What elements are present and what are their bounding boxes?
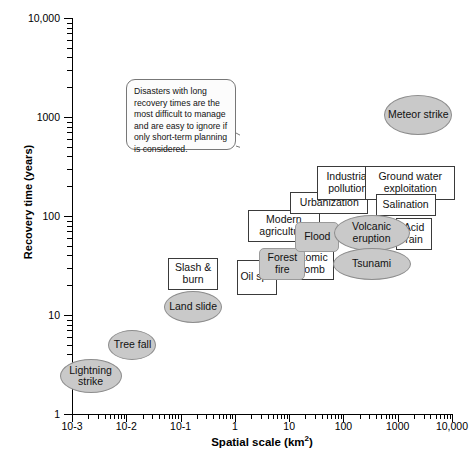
x-tick-minor	[440, 414, 441, 419]
x-tick-minor	[414, 414, 415, 419]
data-point-tsunami: Tsunami	[333, 248, 411, 280]
x-tick-minor	[219, 414, 220, 419]
x-tick-minor	[392, 414, 393, 419]
data-point-flood: Flood	[295, 222, 339, 252]
x-tick-minor	[118, 414, 119, 419]
x-tick-minor	[261, 414, 262, 419]
data-point-slash-burn: Slash & burn	[168, 258, 218, 290]
data-point-land-slide: Land slide	[164, 291, 222, 323]
x-tick-minor	[386, 414, 387, 419]
y-tick-minor	[67, 330, 72, 331]
y-tick-major	[64, 18, 72, 19]
data-point-tree-fall: Tree fall	[108, 330, 156, 360]
y-tick-minor	[67, 320, 72, 321]
x-tick-minor	[159, 414, 160, 419]
y-tick-minor	[67, 57, 72, 58]
x-tick-minor	[232, 414, 233, 419]
data-point-meteor-strike: Meteor strike	[384, 95, 452, 135]
x-tick-minor	[395, 414, 396, 419]
y-tick-minor	[67, 147, 72, 148]
x-tick-minor	[444, 414, 445, 419]
x-tick-minor	[169, 414, 170, 419]
y-tick-minor	[67, 345, 72, 346]
x-tick-minor	[389, 414, 390, 419]
y-tick-minor	[67, 23, 72, 24]
x-tick-minor	[273, 414, 274, 419]
x-tick-minor	[172, 414, 173, 419]
x-tick-minor	[369, 414, 370, 419]
y-tick-minor	[67, 226, 72, 227]
y-tick-minor	[67, 268, 72, 269]
x-tick-minor	[230, 414, 231, 419]
y-tick-label: 1	[0, 408, 60, 420]
y-tick-major	[64, 315, 72, 316]
y-tick-minor	[67, 255, 72, 256]
x-tick-minor	[360, 414, 361, 419]
x-tick-minor	[110, 414, 111, 419]
x-tick-minor	[223, 414, 224, 419]
data-point-lightning-strike: Lightning strike	[60, 359, 122, 393]
x-tick-minor	[152, 414, 153, 419]
y-tick-minor	[67, 132, 72, 133]
x-tick-minor	[213, 414, 214, 419]
x-tick-minor	[277, 414, 278, 419]
x-tick-minor	[331, 414, 332, 419]
x-tick-label: 10-2	[116, 420, 137, 432]
y-tick-minor	[67, 40, 72, 41]
x-tick-minor	[143, 414, 144, 419]
x-tick-minor	[197, 414, 198, 419]
y-tick-minor	[67, 186, 72, 187]
x-tick-minor	[338, 414, 339, 419]
x-tick-label: 10	[283, 420, 295, 432]
x-tick-minor	[287, 414, 288, 419]
y-axis-title: Recovery time (years)	[22, 112, 34, 292]
x-tick-minor	[164, 414, 165, 419]
y-tick-minor	[67, 337, 72, 338]
x-tick-minor	[305, 414, 306, 419]
chart-canvas: 10,0001000100101 10-310-210-111010010001…	[0, 0, 469, 449]
y-tick-label: 10	[0, 309, 60, 321]
y-tick-minor	[67, 87, 72, 88]
x-tick-minor	[124, 414, 125, 419]
y-tick-minor	[67, 221, 72, 222]
x-axis-title-main: Spatial scale (km	[211, 436, 304, 448]
x-axis-title-end: )	[309, 436, 313, 448]
x-tick-label: 10-1	[170, 420, 191, 432]
y-tick-minor	[67, 238, 72, 239]
y-tick-minor	[67, 354, 72, 355]
y-tick-major	[64, 216, 72, 217]
x-axis-title: Spatial scale (km2)	[72, 434, 452, 448]
x-tick-minor	[424, 414, 425, 419]
y-tick-minor	[67, 156, 72, 157]
y-tick-minor	[67, 33, 72, 34]
x-tick-minor	[376, 414, 377, 419]
y-tick-minor	[67, 325, 72, 326]
x-tick-label: 10,000	[436, 420, 468, 432]
y-tick-minor	[67, 127, 72, 128]
x-tick-label: 1	[232, 420, 238, 432]
x-tick-minor	[88, 414, 89, 419]
x-tick-minor	[281, 414, 282, 419]
x-tick-label: 1000	[386, 420, 409, 432]
x-tick-minor	[315, 414, 316, 419]
data-point-forest-fire: Forest fire	[259, 248, 305, 280]
y-axis-line	[72, 18, 73, 414]
x-tick-minor	[284, 414, 285, 419]
x-tick-minor	[98, 414, 99, 419]
x-tick-minor	[121, 414, 122, 419]
x-tick-minor	[447, 414, 448, 419]
x-tick-minor	[114, 414, 115, 419]
callout-annotation: Disasters with long recovery times are t…	[126, 79, 236, 150]
y-tick-minor	[67, 122, 72, 123]
x-tick-minor	[251, 414, 252, 419]
x-tick-minor	[206, 414, 207, 419]
x-tick-minor	[335, 414, 336, 419]
y-tick-minor	[67, 70, 72, 71]
y-tick-label: 10,000	[0, 12, 60, 24]
y-tick-major	[64, 117, 72, 118]
x-tick-minor	[175, 414, 176, 419]
x-tick-label: 100	[335, 420, 353, 432]
x-tick-minor	[178, 414, 179, 419]
y-tick-minor	[67, 246, 72, 247]
x-tick-minor	[341, 414, 342, 419]
